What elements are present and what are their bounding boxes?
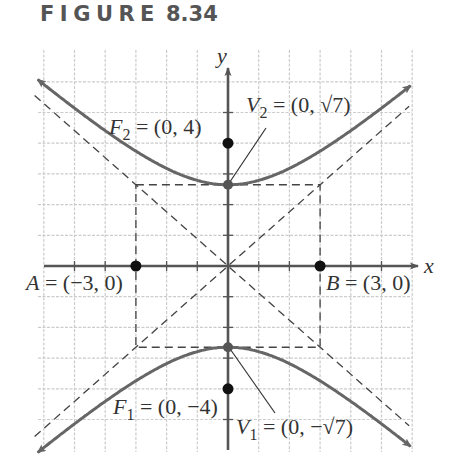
point-F1 [223,383,234,394]
leader-lines [230,128,275,413]
asymptote-negative [35,95,410,425]
point-B [315,261,326,272]
y-axis-label: y [215,43,227,68]
point-V2 [223,180,233,190]
label-V2: V2 = (0, √7) [246,92,351,121]
point-F2 [223,138,234,149]
label-V1: V1 = (0, −√7) [236,414,353,443]
x-axis-label: x [423,253,434,278]
label-A: A = (−3, 0) [24,270,123,295]
upper-branch [38,80,411,185]
hyperbola-plot: y x F2 = (0, 4) V2 = (0, √7) A = (−3, 0)… [0,0,455,462]
label-F2: F2 = (0, 4) [108,114,202,143]
point-A [130,261,141,272]
label-B: B = (3, 0) [326,270,411,295]
point-V1 [223,342,233,352]
leader-V1 [231,350,275,413]
label-F1: F1 = (0, −4) [112,394,218,423]
lower-branch [38,347,411,452]
